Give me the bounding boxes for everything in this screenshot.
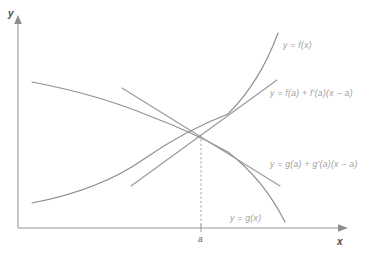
x-tick-label-a: a <box>198 234 203 244</box>
x-axis-arrowhead <box>338 224 348 232</box>
x-axis-label: x <box>336 236 343 247</box>
label-tangent-f: y = f(a) + f'(a)(x − a) <box>269 88 353 98</box>
curves-group <box>32 33 285 222</box>
function-g-curve <box>32 82 285 222</box>
y-axis-arrowhead <box>14 15 22 24</box>
diagram-canvas: y x a y = f(x) y = f(a) + f'(a)(x − a) y… <box>0 0 387 256</box>
label-tangent-g: y = g(a) + g'(a)(x − a) <box>269 159 358 169</box>
label-function-f: y = f(x) <box>282 40 312 50</box>
tangent-line-diagram: y x a y = f(x) y = f(a) + f'(a)(x − a) y… <box>0 0 387 256</box>
y-axis-label: y <box>7 8 14 19</box>
label-function-g: y = g(x) <box>229 213 261 223</box>
